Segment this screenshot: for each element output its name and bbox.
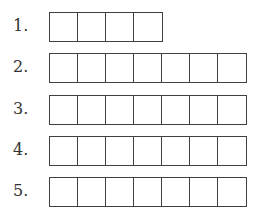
row-number-label: 5.	[13, 181, 28, 200]
letter-box[interactable]	[162, 137, 190, 165]
letter-box[interactable]	[190, 54, 218, 82]
answer-row-1: 1.	[0, 12, 262, 42]
row-number-label: 2.	[13, 57, 28, 76]
letter-box[interactable]	[218, 178, 246, 206]
letter-box-group	[49, 95, 247, 125]
letter-box[interactable]	[106, 178, 134, 206]
letter-box[interactable]	[78, 96, 106, 124]
letter-box[interactable]	[78, 178, 106, 206]
letter-box[interactable]	[134, 13, 162, 41]
letter-box-group	[49, 12, 163, 42]
answer-row-2: 2.	[0, 53, 262, 83]
row-number-label: 1.	[13, 16, 28, 35]
answer-row-5: 5.	[0, 177, 262, 207]
letter-box[interactable]	[78, 13, 106, 41]
letter-box[interactable]	[190, 137, 218, 165]
letter-box[interactable]	[50, 96, 78, 124]
letter-box[interactable]	[134, 137, 162, 165]
letter-box[interactable]	[190, 96, 218, 124]
letter-box[interactable]	[106, 96, 134, 124]
letter-box[interactable]	[134, 96, 162, 124]
letter-box[interactable]	[106, 54, 134, 82]
letter-box[interactable]	[218, 54, 246, 82]
letter-box[interactable]	[134, 178, 162, 206]
letter-box[interactable]	[218, 137, 246, 165]
letter-box[interactable]	[162, 54, 190, 82]
letter-box[interactable]	[162, 178, 190, 206]
letter-box[interactable]	[50, 178, 78, 206]
letter-box[interactable]	[162, 96, 190, 124]
answer-row-3: 3.	[0, 95, 262, 125]
row-number-label: 3.	[13, 99, 28, 118]
letter-box[interactable]	[50, 54, 78, 82]
letter-box-group	[49, 177, 247, 207]
letter-box-group	[49, 136, 247, 166]
letter-box[interactable]	[106, 137, 134, 165]
letter-box[interactable]	[78, 54, 106, 82]
letter-box-group	[49, 53, 247, 83]
letter-box[interactable]	[50, 13, 78, 41]
letter-box[interactable]	[190, 178, 218, 206]
answer-row-4: 4.	[0, 136, 262, 166]
letter-box[interactable]	[134, 54, 162, 82]
letter-box[interactable]	[50, 137, 78, 165]
letter-box[interactable]	[78, 137, 106, 165]
letter-box[interactable]	[218, 96, 246, 124]
row-number-label: 4.	[13, 140, 28, 159]
letter-box[interactable]	[106, 13, 134, 41]
